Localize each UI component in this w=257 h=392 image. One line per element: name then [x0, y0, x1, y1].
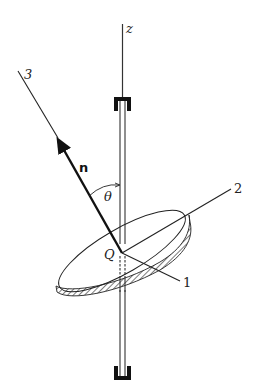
line-2-label: 2	[234, 181, 242, 196]
line-1-label: 1	[183, 275, 191, 290]
bottom-bearing-icon	[114, 366, 131, 380]
theta-label: θ	[104, 189, 112, 204]
disk-axis-diagram: z 3 n θ Q 2 1	[0, 0, 257, 392]
line-3-label: 3	[24, 67, 32, 82]
normal-vector-n	[60, 143, 122, 253]
top-bearing-icon	[114, 97, 131, 111]
normal-vector-label: n	[79, 160, 88, 175]
point-q-label: Q	[104, 247, 115, 262]
z-axis-label: z	[125, 21, 133, 36]
